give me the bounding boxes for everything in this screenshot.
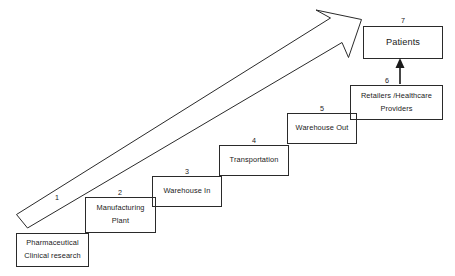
retailers-to-patients-arrow <box>0 0 455 276</box>
retailers-to-patients-arrow-head <box>396 58 405 68</box>
supply-chain-diagram: 1 Pharmaceutical Clinical research 2 Man… <box>0 0 455 276</box>
